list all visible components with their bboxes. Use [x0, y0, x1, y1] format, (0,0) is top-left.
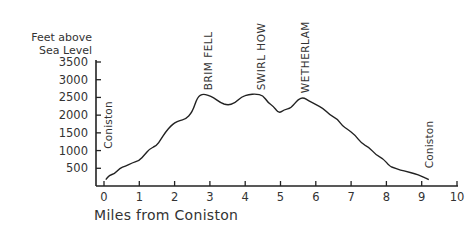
x-tick-label: 4 [242, 190, 249, 204]
y-tick-label: 2000 [59, 108, 88, 122]
peak-label: WETHERLAM [299, 21, 311, 93]
x-tick-label: 10 [450, 190, 465, 204]
x-tick-label: 6 [312, 190, 319, 204]
y-tick-label: 3500 [59, 55, 88, 69]
x-tick-label: 9 [418, 190, 425, 204]
peak-label: Coniston [423, 121, 435, 169]
y-tick-label: 500 [66, 161, 88, 175]
peak-label: Coniston [102, 101, 114, 149]
x-tick-label: 5 [277, 190, 284, 204]
y-tick-label: 1500 [59, 126, 88, 140]
x-tick-label: 0 [100, 190, 107, 204]
x-tick-label: 8 [383, 190, 390, 204]
x-tick-label: 7 [347, 190, 354, 204]
x-axis-title: Miles from Coniston [94, 207, 238, 223]
elevation-profile-chart: 500100015002000250030003500012345678910C… [0, 0, 473, 239]
x-tick-label: 3 [206, 190, 213, 204]
x-tick-label: 2 [171, 190, 178, 204]
peak-label: BRIM FELL [202, 31, 214, 90]
x-tick-label: 1 [136, 190, 143, 204]
peak-label: SWIRL HOW [255, 23, 267, 91]
y-tick-label: 2500 [59, 90, 88, 104]
elevation-line [106, 94, 429, 179]
y-tick-label: 3000 [59, 73, 88, 87]
y-tick-label: 1000 [59, 144, 88, 158]
